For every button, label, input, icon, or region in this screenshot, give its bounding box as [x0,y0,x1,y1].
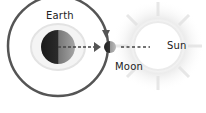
sun-icon [112,0,204,92]
earth-label: Earth [46,10,74,21]
arrow-icon [94,42,101,52]
earth-moon-sun-diagram [0,0,206,113]
sun-label: Sun [167,40,187,51]
moon-label: Moon [115,61,143,72]
orbit-arrow-icon [102,30,110,38]
moon-icon [104,41,116,53]
